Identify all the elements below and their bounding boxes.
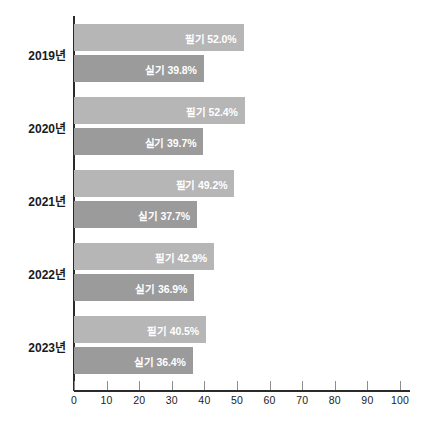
bar-chart: 2019년 필기 52.0% 실기 39.8% 2020년 필기 52.4% <box>0 0 436 428</box>
x-tick-70 <box>302 381 303 390</box>
category-label-2022: 2022년 <box>2 265 66 282</box>
x-tick-40 <box>204 381 205 390</box>
bar-value-label: 필기 49.2% <box>176 176 228 191</box>
bar-value-label: 필기 52.0% <box>185 30 237 45</box>
x-tick-50 <box>237 381 238 390</box>
x-tick-label-40: 40 <box>198 394 210 406</box>
x-tick-10 <box>107 381 108 390</box>
x-tick-label-90: 90 <box>361 394 373 406</box>
x-tick-label-0: 0 <box>71 394 77 406</box>
bar-2023-written[interactable]: 필기 40.5% <box>74 316 206 343</box>
bar-2022-written[interactable]: 필기 42.9% <box>74 243 214 270</box>
bar-value-label: 실기 39.8% <box>145 61 197 76</box>
bar-2021-written[interactable]: 필기 49.2% <box>74 170 234 197</box>
plot-area: 2019년 필기 52.0% 실기 39.8% 2020년 필기 52.4% <box>74 16 400 390</box>
x-tick-90 <box>367 381 368 390</box>
x-tick-60 <box>270 381 271 390</box>
bar-value-label: 필기 52.4% <box>186 103 238 118</box>
x-tick-label-80: 80 <box>329 394 341 406</box>
bar-group-2022: 2022년 필기 42.9% 실기 36.9% <box>74 243 400 307</box>
x-tick-100 <box>400 381 401 390</box>
x-tick-label-70: 70 <box>296 394 308 406</box>
x-tick-label-20: 20 <box>133 394 145 406</box>
x-axis-line <box>74 390 410 392</box>
x-tick-label-30: 30 <box>166 394 178 406</box>
bar-group-2020: 2020년 필기 52.4% 실기 39.7% <box>74 97 400 161</box>
bar-value-label: 필기 42.9% <box>155 249 207 264</box>
bar-2023-practical[interactable]: 실기 36.4% <box>74 347 193 374</box>
bar-value-label: 실기 36.4% <box>134 353 186 368</box>
bar-group-2023: 2023년 필기 40.5% 실기 36.4% <box>74 316 400 380</box>
x-tick-label-100: 100 <box>391 394 409 406</box>
bar-value-label: 필기 40.5% <box>147 322 199 337</box>
category-label-2020: 2020년 <box>2 119 66 136</box>
x-tick-20 <box>139 381 140 390</box>
bar-group-2019: 2019년 필기 52.0% 실기 39.8% <box>74 24 400 88</box>
category-label-2023: 2023년 <box>2 338 66 355</box>
bar-2021-practical[interactable]: 실기 37.7% <box>74 201 197 228</box>
bar-2020-written[interactable]: 필기 52.4% <box>74 97 245 124</box>
x-tick-80 <box>335 381 336 390</box>
bar-value-label: 실기 39.7% <box>145 134 197 149</box>
x-tick-label-50: 50 <box>231 394 243 406</box>
bar-2019-practical[interactable]: 실기 39.8% <box>74 55 204 82</box>
x-tick-0 <box>74 381 75 390</box>
category-label-2019: 2019년 <box>2 46 66 63</box>
x-tick-label-10: 10 <box>101 394 113 406</box>
bar-value-label: 실기 37.7% <box>138 207 190 222</box>
bar-value-label: 실기 36.9% <box>135 280 187 295</box>
bar-2019-written[interactable]: 필기 52.0% <box>74 24 244 51</box>
bar-2022-practical[interactable]: 실기 36.9% <box>74 274 194 301</box>
x-tick-30 <box>172 381 173 390</box>
category-label-2021: 2021년 <box>2 192 66 209</box>
x-tick-label-60: 60 <box>264 394 276 406</box>
bar-2020-practical[interactable]: 실기 39.7% <box>74 128 203 155</box>
bar-group-2021: 2021년 필기 49.2% 실기 37.7% <box>74 170 400 234</box>
